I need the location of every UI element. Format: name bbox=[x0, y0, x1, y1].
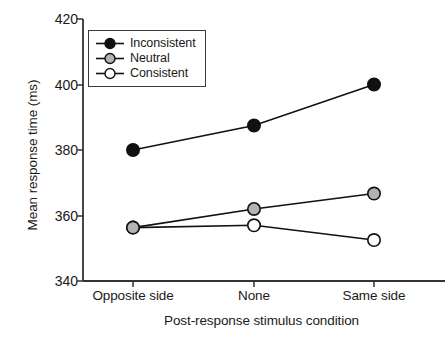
data-point bbox=[248, 219, 260, 231]
legend-item-inconsistent: Inconsistent bbox=[95, 36, 196, 51]
line-chart-figure: Mean response time (ms) 420 400 380 360 … bbox=[0, 0, 448, 344]
chart-legend: Inconsistent Neutral Consistent bbox=[88, 30, 206, 87]
legend-label-neutral: Neutral bbox=[130, 51, 170, 66]
legend-marker-filled-circle-icon bbox=[95, 36, 125, 51]
data-point bbox=[248, 203, 260, 215]
plot-area bbox=[0, 0, 448, 344]
data-point bbox=[368, 78, 380, 90]
series-markers-inconsistent bbox=[127, 78, 380, 156]
legend-item-consistent: Consistent bbox=[95, 66, 196, 81]
data-point bbox=[368, 234, 380, 246]
legend-marker-open-circle-icon bbox=[95, 66, 125, 81]
series-line-inconsistent bbox=[133, 85, 374, 151]
data-point bbox=[127, 144, 139, 156]
data-point bbox=[248, 119, 260, 131]
legend-label-inconsistent: Inconsistent bbox=[130, 36, 196, 51]
legend-item-neutral: Neutral bbox=[95, 51, 196, 66]
data-point bbox=[127, 221, 139, 233]
legend-label-consistent: Consistent bbox=[130, 66, 188, 81]
legend-marker-gray-circle-icon bbox=[95, 51, 125, 66]
data-point bbox=[368, 187, 380, 199]
